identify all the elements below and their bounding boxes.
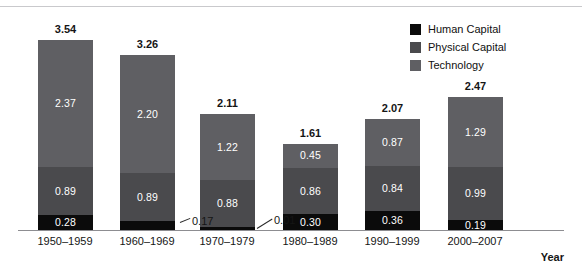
- bar-stack: 0.19 0.99 1.29: [448, 97, 503, 230]
- bar-total-label: 3.54: [26, 24, 106, 35]
- leader-line: [257, 219, 273, 229]
- external-value-label: 0.01: [274, 215, 295, 226]
- bar-total-label: 2.07: [353, 103, 433, 114]
- legend-swatch-icon: [410, 60, 421, 71]
- bar-segment-technology: 1.29: [448, 97, 503, 166]
- bar-stack: 0.28 0.89 2.37: [38, 40, 93, 230]
- bar-segment-physical-capital: 0.86: [283, 168, 338, 214]
- legend-item-technology: Technology: [410, 58, 575, 73]
- bar-segment-value: 2.20: [137, 109, 158, 120]
- legend-swatch-icon: [410, 24, 421, 35]
- bar-segment-value: 0.88: [217, 198, 238, 209]
- bar-segment-value: 0.87: [382, 137, 403, 148]
- bar-segment-technology: 0.45: [283, 144, 338, 168]
- bar-segment-physical-capital: 0.89: [120, 173, 175, 221]
- bar-segment-value: 0.84: [382, 183, 403, 194]
- bar-total-label: 3.26: [108, 39, 188, 50]
- bar-segment-value: 0.89: [55, 186, 76, 197]
- bar-segment-human-capital: [120, 221, 175, 230]
- bar-total-label: 1.61: [271, 128, 351, 139]
- bar-stack: 0.36 0.84 0.87: [365, 119, 420, 230]
- bar-segment-technology: 1.22: [200, 114, 255, 180]
- bar-segment-technology: 0.87: [365, 119, 420, 166]
- legend-label: Technology: [428, 60, 484, 71]
- plot-area: 3.54 0.28 0.89 2.37 3.26 0.89: [0, 0, 582, 272]
- x-axis-title: Year: [541, 252, 564, 263]
- bar-segment-human-capital: 0.36: [365, 211, 420, 230]
- bar-segment-physical-capital: 0.84: [365, 166, 420, 211]
- legend-item-physical-capital: Physical Capital: [410, 40, 575, 55]
- stacked-bar-chart-figure: 3.54 0.28 0.89 2.37 3.26 0.89: [0, 0, 582, 272]
- leader-line: [180, 218, 191, 223]
- external-value-label: 0.17: [192, 216, 213, 227]
- bar-segment-physical-capital: 0.89: [38, 167, 93, 215]
- bar-stack: 0.89 2.20: [120, 55, 175, 230]
- bar-segment-value: 1.22: [217, 142, 238, 153]
- bar-segment-value: 0.86: [300, 186, 321, 197]
- bar-total-label: 2.47: [436, 81, 516, 92]
- legend-label: Human Capital: [428, 24, 501, 35]
- bar-segment-value: 0.89: [137, 192, 158, 203]
- x-tick-label: 2000–2007: [420, 236, 530, 247]
- legend-swatch-icon: [410, 42, 421, 53]
- bar-segment-value: 1.29: [465, 127, 486, 138]
- bar-stack: 0.88 1.22: [200, 114, 255, 230]
- bar-segment-value: 0.36: [382, 215, 403, 226]
- legend-label: Physical Capital: [428, 42, 506, 53]
- bar-segment-human-capital: 0.19: [448, 220, 503, 230]
- bar-segment-value: 2.37: [55, 98, 76, 109]
- bar-total-label: 2.11: [188, 98, 268, 109]
- bar-segment-value: 0.19: [465, 220, 486, 231]
- bar-segment-value: 0.45: [300, 150, 321, 161]
- bar-segment-technology: 2.20: [120, 55, 175, 173]
- bar-segment-human-capital: [200, 227, 255, 230]
- bar-segment-value: 0.28: [55, 217, 76, 228]
- bar-segment-value: 0.99: [465, 188, 486, 199]
- legend-item-human-capital: Human Capital: [410, 22, 575, 37]
- bar-segment-technology: 2.37: [38, 40, 93, 167]
- chart-legend: Human Capital Physical Capital Technolog…: [410, 22, 575, 76]
- bar-segment-human-capital: 0.28: [38, 215, 93, 230]
- bar-segment-physical-capital: 0.99: [448, 167, 503, 220]
- bar-segment-value: 0.30: [300, 217, 321, 228]
